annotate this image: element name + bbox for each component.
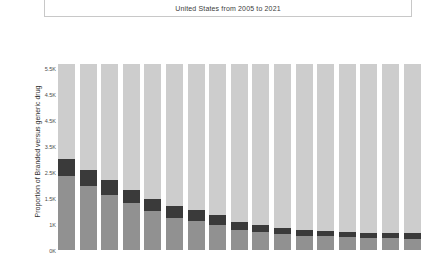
bar-segment-other	[317, 236, 334, 250]
bar-segment-other	[188, 221, 205, 250]
bar-series-container	[58, 0, 426, 266]
bar-segment-generic	[317, 64, 334, 231]
bar-segment-branded	[339, 232, 356, 237]
bar-column	[252, 64, 269, 250]
bar-segment-other	[144, 211, 161, 250]
bar-column	[80, 64, 97, 250]
bar-segment-branded	[317, 231, 334, 237]
bar-column	[339, 64, 356, 250]
bar-segment-other	[166, 218, 183, 250]
bar-segment-generic	[339, 64, 356, 232]
bar-column	[209, 64, 226, 250]
bar-segment-branded	[274, 228, 291, 235]
bar-segment-generic	[80, 64, 97, 170]
y-axis-tick-label: 1K	[28, 222, 56, 228]
bar-column	[317, 64, 334, 250]
bar-segment-other	[382, 238, 399, 250]
y-axis-tick-label: 2.5K	[28, 170, 56, 176]
bar-segment-generic	[382, 64, 399, 233]
bar-segment-branded	[101, 180, 118, 195]
bar-column	[296, 64, 313, 250]
y-axis-tick-label: 4.5K	[28, 118, 56, 124]
y-axis-tick-label: 0K	[28, 248, 56, 254]
bar-segment-branded	[144, 199, 161, 212]
bar-segment-generic	[123, 64, 140, 190]
bar-segment-generic	[101, 64, 118, 180]
bar-segment-generic	[274, 64, 291, 228]
bar-segment-generic	[166, 64, 183, 206]
bar-segment-branded	[252, 225, 269, 232]
bar-segment-other	[339, 237, 356, 250]
bar-segment-other	[274, 234, 291, 250]
bar-column	[404, 64, 421, 250]
y-axis-tick-label: 5.5K	[28, 66, 56, 72]
bar-column	[382, 64, 399, 250]
y-axis-tick-label: 4.5K	[28, 92, 56, 98]
bar-column	[123, 64, 140, 250]
bar-column	[144, 64, 161, 250]
bar-column	[166, 64, 183, 250]
bar-segment-branded	[58, 159, 75, 177]
bar-column	[58, 64, 75, 250]
bar-segment-other	[123, 203, 140, 250]
bar-segment-branded	[123, 190, 140, 204]
bar-segment-generic	[404, 64, 421, 233]
bar-column	[101, 64, 118, 250]
bar-segment-generic	[58, 64, 75, 159]
bar-segment-generic	[144, 64, 161, 199]
bar-segment-other	[80, 186, 97, 250]
bar-segment-branded	[382, 233, 399, 238]
bar-column	[274, 64, 291, 250]
bar-segment-generic	[188, 64, 205, 210]
bar-segment-branded	[166, 206, 183, 217]
bar-segment-branded	[209, 215, 226, 225]
bar-segment-other	[296, 236, 313, 250]
bar-segment-generic	[252, 64, 269, 225]
bar-segment-generic	[360, 64, 377, 233]
bar-segment-branded	[80, 170, 97, 186]
y-axis-tick-label: 1.5K	[28, 196, 56, 202]
y-axis-tick-label: 3.5K	[28, 144, 56, 150]
bar-segment-generic	[231, 64, 248, 222]
bar-segment-branded	[231, 222, 248, 230]
bar-segment-branded	[188, 210, 205, 221]
bar-column	[188, 64, 205, 250]
bar-segment-generic	[209, 64, 226, 215]
bar-segment-branded	[296, 230, 313, 236]
bar-segment-branded	[404, 233, 421, 238]
bar-segment-other	[231, 230, 248, 250]
bar-segment-other	[101, 195, 118, 250]
bar-segment-generic	[296, 64, 313, 230]
bar-column	[231, 64, 248, 250]
bar-segment-other	[209, 225, 226, 250]
bar-segment-branded	[360, 233, 377, 238]
bar-segment-other	[252, 232, 269, 250]
bar-segment-other	[404, 239, 421, 250]
bar-segment-other	[58, 176, 75, 250]
bar-segment-other	[360, 238, 377, 250]
y-axis-tick-labels: 5.5K4.5K4.5K3.5K2.5K1.5K1K0K	[28, 0, 56, 266]
chart-plot-area: United States from 2005 to 2021 Proporti…	[0, 0, 431, 266]
bar-column	[360, 64, 377, 250]
